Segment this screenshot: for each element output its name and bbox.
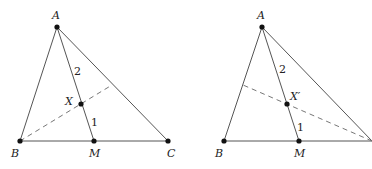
label-a: A <box>51 9 60 22</box>
side-ab <box>224 27 262 141</box>
diagram-canvas: A B M C X 2 1 A B M X′ 2 1 <box>0 0 372 169</box>
label-m: M <box>88 147 101 160</box>
dashed-cevian-c <box>243 85 372 141</box>
point-c <box>165 138 170 143</box>
figure-right: A B M X′ 2 1 <box>214 9 372 160</box>
label-b: B <box>10 147 19 160</box>
ratio-upper: 2 <box>74 65 81 78</box>
point-m <box>296 138 301 143</box>
point-a <box>259 24 264 29</box>
ratio-lower: 1 <box>91 116 98 129</box>
label-b: B <box>214 147 223 160</box>
side-ab <box>20 27 57 141</box>
point-m <box>91 138 96 143</box>
ratio-lower: 1 <box>297 121 304 134</box>
point-b <box>221 138 226 143</box>
label-x: X <box>64 95 74 108</box>
point-x-prime <box>284 101 289 106</box>
side-ac <box>57 27 168 141</box>
label-c: C <box>167 147 176 160</box>
median-am <box>262 27 299 141</box>
label-x-prime: X′ <box>289 90 301 103</box>
label-a: A <box>256 9 265 22</box>
ratio-upper: 2 <box>279 63 286 76</box>
side-ac <box>262 27 372 141</box>
point-b <box>17 138 22 143</box>
label-m: M <box>293 147 306 160</box>
figure-left: A B M C X 2 1 <box>10 9 176 160</box>
point-a <box>54 24 59 29</box>
median-am <box>57 27 94 141</box>
dashed-cevian-b <box>20 85 112 141</box>
point-x <box>78 101 83 106</box>
